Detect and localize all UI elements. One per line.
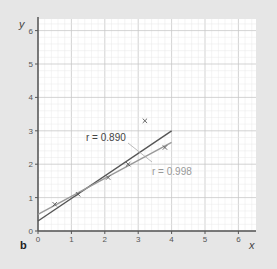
y-tick-label: 3 bbox=[29, 127, 34, 136]
x-tick-label: 6 bbox=[236, 235, 241, 244]
annotation-r-0998: r = 0.998 bbox=[152, 166, 192, 177]
x-tick-label: 5 bbox=[203, 235, 208, 244]
y-tick-label: 0 bbox=[29, 227, 34, 236]
y-tick-label: 6 bbox=[29, 27, 34, 36]
x-tick-label: 2 bbox=[103, 235, 108, 244]
x-tick-label: 3 bbox=[136, 235, 141, 244]
y-tick-label: 1 bbox=[29, 194, 34, 203]
panel-label: b bbox=[20, 239, 27, 251]
scatter-chart: 01234560123456 r = 0.890r = 0.998 x y b bbox=[0, 0, 277, 269]
x-tick-label: 1 bbox=[69, 235, 74, 244]
x-tick-label: 0 bbox=[36, 235, 41, 244]
x-tick-label: 4 bbox=[169, 235, 174, 244]
x-axis-label: x bbox=[248, 239, 255, 251]
y-tick-label: 2 bbox=[29, 160, 34, 169]
y-tick-label: 4 bbox=[29, 93, 34, 102]
annotation-r-0890: r = 0.890 bbox=[86, 132, 126, 143]
y-tick-label: 5 bbox=[29, 60, 34, 69]
